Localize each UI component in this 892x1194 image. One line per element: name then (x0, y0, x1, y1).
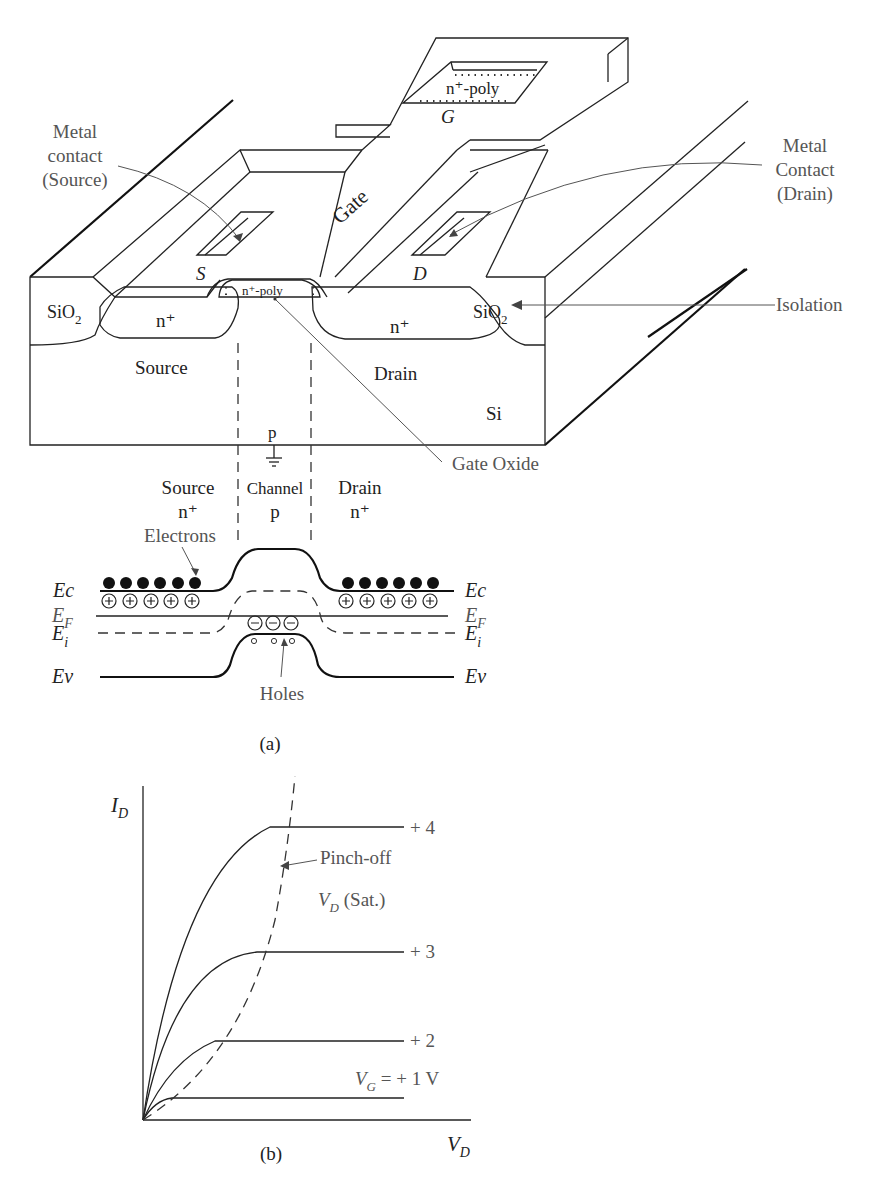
band-label-electrons: Electrons (144, 525, 216, 546)
band-label-channel: Channel (247, 479, 304, 498)
band-label-drain: Drain (338, 477, 382, 498)
label-metal-contact-source-2: contact (48, 145, 104, 166)
ionized-donors-source (102, 594, 199, 608)
label-n-plus-drain: n⁺ (390, 316, 410, 337)
curve-vg-1 (143, 1098, 404, 1120)
label-gate-poly: n⁺-poly (242, 283, 283, 298)
label-source-region: Source (135, 357, 188, 378)
label-metal-contact-source-1: Metal (53, 121, 97, 142)
band-label-source: Source (162, 477, 215, 498)
label-metal-contact-drain-2: Contact (775, 159, 835, 180)
label-isolation: Isolation (776, 294, 843, 315)
label-pinch-off: Pinch-off (320, 847, 392, 868)
label-metal-contact-drain-3: (Drain) (777, 183, 833, 205)
label-n-plus-source: n⁺ (156, 310, 176, 331)
caption-b: (b) (260, 1143, 282, 1165)
label-drain-terminal-d: D (412, 263, 427, 284)
label-metal-contact-drain-1: Metal (783, 135, 827, 156)
label-vd-sat: VD (Sat.) (318, 889, 385, 915)
band-label-drain-type: n⁺ (350, 501, 370, 522)
holes-channel (251, 638, 294, 643)
mosfet-3d-structure (30, 38, 775, 545)
x-axis-label: VD (447, 1132, 470, 1160)
label-metal-contact-source-3: (Source) (42, 169, 107, 191)
y-axis-label: ID (110, 793, 128, 821)
structure-labels: Metal contact (Source) Metal Contact (Dr… (42, 79, 843, 474)
curve-vg-3 (143, 952, 404, 1120)
label-ev-left: Ev (51, 665, 73, 687)
band-diagram: Source n⁺ Channel p Drain n⁺ Electrons (51, 477, 486, 755)
label-ev-right: Ev (464, 665, 486, 687)
label-vg-1v: VG = + 1 V (355, 1068, 440, 1094)
band-label-holes: Holes (260, 683, 304, 704)
label-si-substrate: Si (486, 403, 502, 424)
label-source-terminal-s: S (196, 263, 206, 284)
label-gate-pad-poly: n⁺-poly (446, 79, 500, 98)
curve-label-3: + 3 (410, 941, 435, 962)
label-ec-left: Ec (52, 579, 74, 601)
arrow-head-isolation (511, 300, 522, 310)
label-p-body: p (268, 423, 277, 442)
label-gate-terminal-g: G (441, 106, 455, 127)
ionized-acceptors-channel (248, 616, 298, 630)
electrons-drain (342, 577, 439, 589)
caption-a: (a) (259, 733, 280, 755)
ionized-donors-drain (339, 594, 437, 608)
label-gate: Gate (327, 184, 373, 228)
mosfet-figure: Metal contact (Source) Metal Contact (Dr… (0, 0, 892, 1194)
label-sio2-left: SiO2 (47, 302, 82, 327)
band-label-channel-type: p (270, 501, 280, 522)
label-ec-right: Ec (464, 579, 486, 601)
band-label-source-type: n⁺ (178, 501, 198, 522)
label-gate-oxide: Gate Oxide (452, 453, 539, 474)
curve-label-2: + 2 (410, 1030, 435, 1051)
label-sio2-right: SiO2 (473, 302, 508, 327)
label-drain-region: Drain (374, 363, 418, 384)
iv-characteristics-chart: ID VD Pinch-off VD (Sat.) + 4 + 3 + 2 VG… (110, 776, 471, 1165)
curve-label-4: + 4 (410, 817, 435, 838)
electrons-source (103, 577, 201, 589)
